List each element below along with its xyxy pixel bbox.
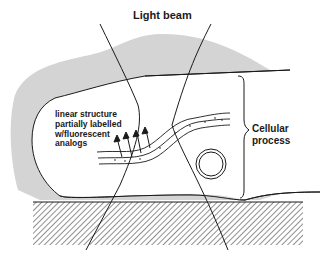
- light-beam-label: Light beam: [133, 9, 192, 22]
- substrate-hatched: [33, 202, 303, 245]
- cellular-process-label: Cellular process: [252, 123, 290, 146]
- linear-structure-label: linear structure partially labelled w/fl…: [55, 110, 155, 149]
